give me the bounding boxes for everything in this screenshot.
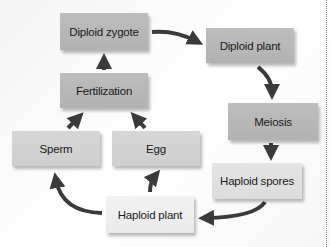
node-label: Fertilization <box>76 85 132 97</box>
node-label: Sperm <box>40 143 73 155</box>
node-label: Meiosis <box>254 116 292 128</box>
dotted-divider <box>326 0 327 247</box>
arrow-haploid-plant-to-sperm <box>56 180 102 213</box>
node-egg: Egg <box>112 131 200 166</box>
arrow-zygote-to-diploid-plant <box>152 32 196 41</box>
arrow-spores-to-haploid-plant <box>206 202 265 218</box>
node-label: Egg <box>146 143 166 155</box>
node-haploid-plant: Haploid plant <box>106 196 194 233</box>
node-sperm: Sperm <box>12 131 100 166</box>
arrow-sperm-to-fertilization <box>68 118 78 128</box>
node-label: Haploid plant <box>118 209 183 221</box>
node-label: Haploid spores <box>220 175 294 187</box>
arrow-diploid-plant-to-meiosis <box>258 67 272 92</box>
node-meiosis: Meiosis <box>228 103 318 140</box>
node-haploid-spores: Haploid spores <box>212 163 302 199</box>
node-label: Diploid zygote <box>69 26 138 38</box>
node-diploid-zygote: Diploid zygote <box>60 13 148 50</box>
arrow-egg-to-fertilization <box>136 118 145 128</box>
arrow-haploid-plant-to-egg <box>150 176 155 192</box>
node-fertilization: Fertilization <box>60 73 148 108</box>
node-label: Diploid plant <box>220 40 281 52</box>
node-diploid-plant: Diploid plant <box>206 28 294 63</box>
